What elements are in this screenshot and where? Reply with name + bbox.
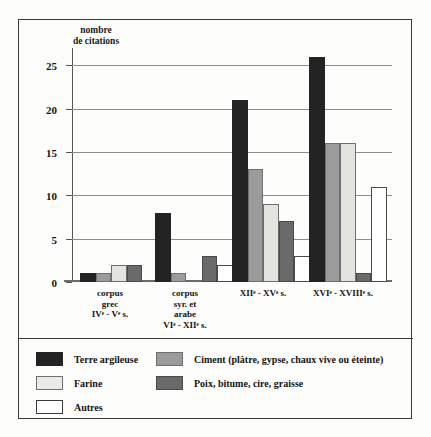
bar <box>325 143 341 282</box>
legend-label: Terre argileuse <box>74 354 138 365</box>
legend-label: Poix, bitume, cire, graisse <box>194 378 303 389</box>
legend-item: Terre argileuse <box>36 352 138 366</box>
legend-item: Ciment (plâtre, gypse, chaux vive ou éte… <box>156 352 383 366</box>
y-axis-tick: 0 <box>66 282 72 283</box>
plot-area: 0510152025 <box>72 48 392 282</box>
legend-swatch <box>156 376 183 390</box>
bar <box>202 256 218 282</box>
chart-legend: Terre argileuseCiment (plâtre, gypse, ch… <box>19 338 413 418</box>
legend-swatch <box>36 352 63 366</box>
legend-label: Ciment (plâtre, gypse, chaux vive ou éte… <box>194 354 383 365</box>
legend-label: Autres <box>74 402 103 413</box>
legend-swatch <box>156 352 183 366</box>
y-axis-tick-label: 0 <box>52 277 58 289</box>
bar <box>171 273 187 282</box>
legend-item: Poix, bitume, cire, graisse <box>156 376 303 390</box>
chart-plot-region: nombre de citations 0510152025 corpus gr… <box>19 20 413 338</box>
bar <box>217 265 233 282</box>
y-axis-tick-label: 20 <box>46 104 57 116</box>
legend-item: Farine <box>36 376 102 390</box>
y-axis-tick-label: 15 <box>46 147 57 159</box>
x-axis-category-label: XVIᵉ - XVIIIᵉ s. <box>291 288 395 299</box>
bar <box>340 143 356 282</box>
bar <box>127 265 143 282</box>
bar <box>356 273 372 282</box>
y-axis-tick-label: 5 <box>52 234 58 246</box>
bar <box>155 213 171 282</box>
y-axis-tick-label: 10 <box>46 190 57 202</box>
figure: nombre de citations 0510152025 corpus gr… <box>0 0 431 437</box>
bar <box>80 273 96 282</box>
legend-label: Farine <box>74 378 102 389</box>
y-axis-tick: 10 <box>66 195 72 196</box>
legend-item: Autres <box>36 400 103 414</box>
y-axis-tick: 15 <box>66 152 72 153</box>
y-axis-tick-label: 25 <box>46 60 57 72</box>
y-axis-tick: 25 <box>66 65 72 66</box>
y-axis-title: nombre de citations <box>41 25 151 47</box>
gridline <box>72 65 392 66</box>
bar <box>309 57 325 282</box>
bar <box>371 187 387 282</box>
legend-swatch <box>36 376 63 390</box>
bar <box>248 169 264 282</box>
bar <box>279 221 295 282</box>
bar <box>232 100 248 282</box>
chart-frame: nombre de citations 0510152025 corpus gr… <box>18 19 412 419</box>
y-axis-tick: 20 <box>66 109 72 110</box>
bar <box>294 256 310 282</box>
legend-swatch <box>36 400 63 414</box>
y-axis-tick: 5 <box>66 239 72 240</box>
bar <box>263 204 279 282</box>
y-axis-line <box>72 48 73 282</box>
bar <box>111 265 127 282</box>
bar <box>96 273 112 282</box>
